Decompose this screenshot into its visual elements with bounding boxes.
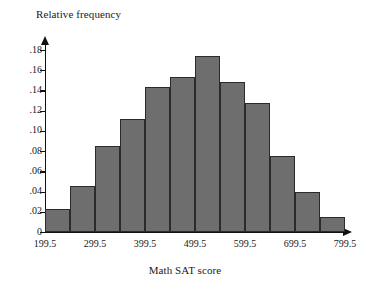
y-axis-title: Relative frequency xyxy=(36,8,121,21)
histogram-bar xyxy=(95,146,120,232)
histogram-bar xyxy=(245,103,270,232)
y-tick-label: .12 xyxy=(16,103,42,116)
histogram-bar xyxy=(70,186,95,232)
y-tick-label: .16 xyxy=(16,63,42,76)
plot-area: 0.02.04.06.08.10.12.14.16.18 199.5299.53… xyxy=(45,45,350,233)
histogram-bars xyxy=(45,45,345,232)
histogram-bar xyxy=(45,209,70,232)
y-tick-label: .02 xyxy=(16,204,42,217)
histogram-bar xyxy=(120,119,145,232)
y-tick-label: .08 xyxy=(16,144,42,157)
x-axis-title: Math SAT score xyxy=(0,264,370,277)
histogram-bar xyxy=(195,56,220,232)
x-tick-label: 599.5 xyxy=(234,237,257,250)
y-axis-arrow-icon xyxy=(41,36,49,45)
x-tick-label: 199.5 xyxy=(34,237,57,250)
histogram-bar xyxy=(320,217,345,232)
histogram-bar xyxy=(270,156,295,232)
histogram-bar xyxy=(295,192,320,232)
y-tick-label: .06 xyxy=(16,164,42,177)
x-tick-label: 799.5 xyxy=(334,237,357,250)
x-tick-label: 399.5 xyxy=(134,237,157,250)
histogram-bar xyxy=(145,87,170,232)
x-tick-label: 299.5 xyxy=(84,237,107,250)
y-tick-label: 0 xyxy=(16,225,42,238)
y-tick-label: .04 xyxy=(16,184,42,197)
y-tick-label: .10 xyxy=(16,123,42,136)
x-tick-label: 699.5 xyxy=(284,237,307,250)
histogram-bar xyxy=(220,82,245,232)
histogram-bar xyxy=(170,77,195,232)
y-tick-label: .14 xyxy=(16,83,42,96)
y-tick-label: .18 xyxy=(16,43,42,56)
x-tick-label: 499.5 xyxy=(184,237,207,250)
histogram-figure: Relative frequency 0.02.04.06.08.10.12.1… xyxy=(0,0,370,291)
x-axis-line xyxy=(45,232,345,233)
